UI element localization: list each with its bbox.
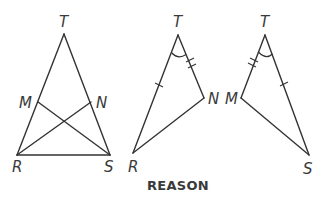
label-T: T (260, 13, 271, 31)
label-R: R (12, 158, 22, 176)
triangle-trn: T N R (128, 13, 219, 176)
triangle-rst: T M N R S (12, 13, 114, 176)
label-T: T (173, 13, 184, 31)
angle-T-arc (171, 53, 186, 57)
angle-T-arc (259, 52, 273, 57)
label-M: M (225, 90, 238, 108)
triangle-tms: T M S (225, 13, 313, 178)
label-M: M (19, 94, 32, 112)
geometry-figure: T M N R S T N R T M S REASON (0, 0, 324, 198)
reason-caption: REASON (147, 178, 209, 193)
label-S: S (303, 160, 313, 178)
label-N: N (96, 94, 107, 112)
label-T: T (59, 13, 70, 31)
label-N: N (208, 90, 219, 108)
label-S: S (104, 158, 114, 176)
label-R: R (128, 158, 138, 176)
double-tick-mark-2 (250, 58, 258, 62)
segment-TM (241, 35, 265, 98)
